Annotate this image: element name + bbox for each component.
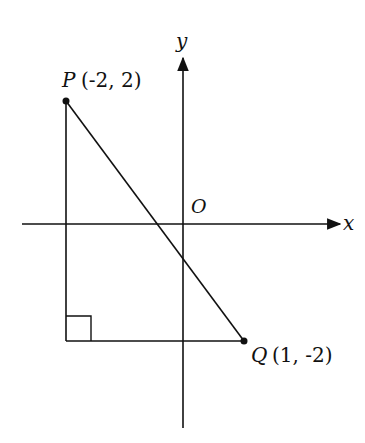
origin-label: O xyxy=(191,195,207,217)
segment-pq xyxy=(66,101,244,341)
point-q xyxy=(241,338,248,345)
point-q-name: Q xyxy=(251,343,267,367)
x-axis-label: x xyxy=(343,211,354,235)
coordinate-diagram: y x O P (-2, 2) Q (1, -2) xyxy=(0,0,365,443)
right-angle-marker xyxy=(66,316,91,341)
point-p xyxy=(63,98,70,105)
point-q-coords: (1, -2) xyxy=(272,343,333,367)
point-p-coords: (-2, 2) xyxy=(81,68,142,92)
point-p-name: P xyxy=(61,68,76,92)
y-axis-label: y xyxy=(175,29,188,53)
